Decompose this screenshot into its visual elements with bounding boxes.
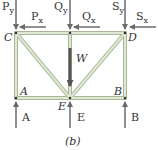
joint-B (124, 97, 127, 100)
truss-free-body-diagram: Py Px Qy Qx Sy Sx W C D A B E A E B (b) (0, 0, 158, 150)
label-joint-D: D (127, 31, 137, 44)
label-W: W (76, 52, 89, 65)
joint-A (15, 97, 18, 100)
joint-C (15, 32, 18, 35)
figure-caption: (b) (65, 135, 81, 148)
label-Qy: Qy (54, 0, 68, 15)
label-Sy: Sy (112, 0, 125, 15)
label-joint-E: E (57, 100, 66, 113)
label-joint-A: A (19, 85, 28, 98)
label-Py: Py (2, 0, 14, 15)
label-Sx: Sx (136, 10, 149, 25)
joint-D (124, 32, 127, 35)
label-Px: Px (31, 10, 43, 25)
joint-E (69, 97, 72, 100)
label-joint-C: C (4, 31, 13, 44)
label-joint-B: B (113, 85, 122, 98)
label-reaction-E: E (77, 111, 85, 124)
label-reaction-A: A (21, 111, 31, 124)
label-Qx: Qx (82, 10, 96, 25)
label-reaction-B: B (131, 111, 139, 124)
joint-Q (69, 32, 72, 35)
